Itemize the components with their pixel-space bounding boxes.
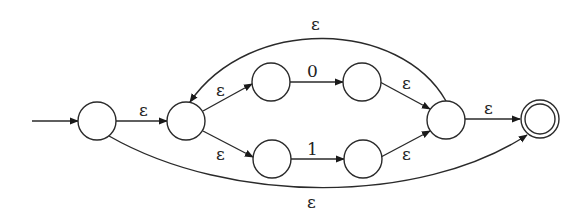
state-q4 bbox=[253, 140, 291, 178]
nfa-diagram: ε ε ε 0 1 ε ε ε ε ε bbox=[0, 0, 582, 218]
label-q0-q1: ε bbox=[139, 100, 148, 120]
label-q6-q1: ε bbox=[311, 14, 320, 34]
edge-q1-q2 bbox=[203, 84, 252, 111]
label-q4-q5: 1 bbox=[307, 139, 318, 159]
state-q1 bbox=[167, 102, 205, 140]
label-q6-q7: ε bbox=[484, 98, 493, 118]
label-q5-q6: ε bbox=[402, 144, 411, 164]
state-q0 bbox=[78, 102, 116, 140]
state-q6 bbox=[427, 101, 465, 139]
edge-q1-q4 bbox=[203, 131, 253, 157]
label-q1-q4: ε bbox=[216, 144, 225, 164]
label-q3-q6: ε bbox=[402, 73, 411, 93]
state-q2 bbox=[252, 63, 290, 101]
state-q3 bbox=[343, 63, 381, 101]
label-q2-q3: 0 bbox=[307, 61, 318, 81]
edge-q0-q7 bbox=[109, 135, 527, 188]
label-q0-q7: ε bbox=[307, 192, 316, 212]
accept-ring bbox=[525, 104, 555, 134]
state-q5 bbox=[344, 140, 382, 178]
label-q1-q2: ε bbox=[216, 80, 225, 100]
